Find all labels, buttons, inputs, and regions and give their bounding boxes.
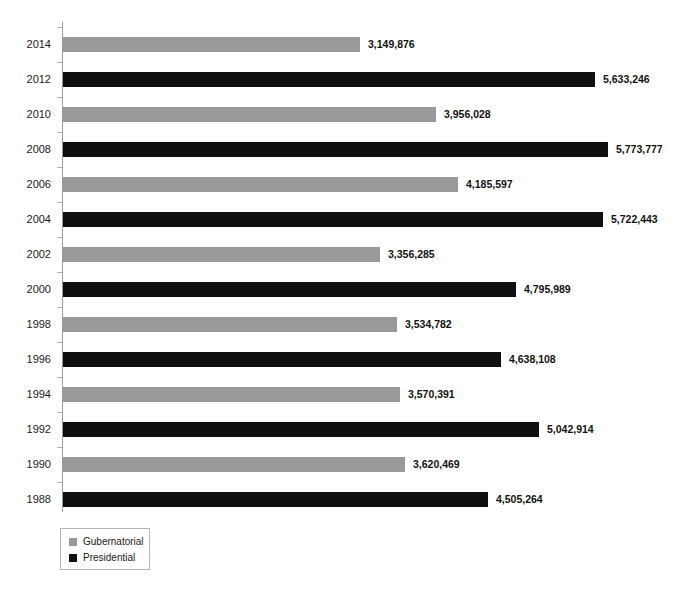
axis-tick <box>57 412 62 413</box>
category-label: 2010 <box>0 107 51 121</box>
category-label: 2000 <box>0 282 51 296</box>
bar-value-label: 4,505,264 <box>496 493 543 506</box>
category-label: 1988 <box>0 492 51 506</box>
axis-tick <box>57 307 62 308</box>
bar-presidential <box>63 282 516 297</box>
bar-row: 19964,638,108 <box>0 342 690 377</box>
axis-tick <box>57 27 62 28</box>
bar-gubernatorial <box>63 247 380 262</box>
bar-presidential <box>63 492 488 507</box>
bar-value-label: 3,534,782 <box>405 318 452 331</box>
bar-gubernatorial <box>63 387 400 402</box>
axis-tick <box>57 97 62 98</box>
bar-row: 20085,773,777 <box>0 132 690 167</box>
category-label: 1996 <box>0 352 51 366</box>
bar-value-label: 5,773,777 <box>616 143 663 156</box>
category-label: 2002 <box>0 247 51 261</box>
bar-value-label: 3,149,876 <box>368 38 415 51</box>
bar-row: 20023,356,285 <box>0 237 690 272</box>
bar-value-label: 5,042,914 <box>547 423 594 436</box>
category-label: 1998 <box>0 317 51 331</box>
bar-row: 19884,505,264 <box>0 482 690 517</box>
axis-tick <box>57 62 62 63</box>
bar-row: 19903,620,469 <box>0 447 690 482</box>
axis-tick <box>57 272 62 273</box>
category-label: 1994 <box>0 387 51 401</box>
bar-presidential <box>63 352 501 367</box>
bar-row: 20125,633,246 <box>0 62 690 97</box>
axis-tick <box>57 237 62 238</box>
bar-row: 19983,534,782 <box>0 307 690 342</box>
bar-row: 20064,185,597 <box>0 167 690 202</box>
bar-value-label: 3,570,391 <box>408 388 455 401</box>
axis-tick <box>57 342 62 343</box>
chart-legend: Gubernatorial Presidential <box>60 528 150 570</box>
category-label: 2012 <box>0 72 51 86</box>
axis-tick <box>57 132 62 133</box>
bar-gubernatorial <box>63 177 458 192</box>
axis-tick <box>57 377 62 378</box>
legend-label-gubernatorial: Gubernatorial <box>83 535 144 549</box>
axis-tick <box>57 482 62 483</box>
bar-value-label: 4,795,989 <box>524 283 571 296</box>
bar-presidential <box>63 212 603 227</box>
bar-value-label: 5,722,443 <box>611 213 658 226</box>
bar-presidential <box>63 422 539 437</box>
category-label: 2006 <box>0 177 51 191</box>
bar-gubernatorial <box>63 317 397 332</box>
bar-value-label: 4,185,597 <box>466 178 513 191</box>
category-label: 2004 <box>0 212 51 226</box>
bar-value-label: 3,620,469 <box>413 458 460 471</box>
bar-row: 20004,795,989 <box>0 272 690 307</box>
category-label: 1990 <box>0 457 51 471</box>
legend-swatch-icon-presidential <box>69 554 77 562</box>
bar-row: 19925,042,914 <box>0 412 690 447</box>
legend-label-presidential: Presidential <box>83 551 135 565</box>
bar-row: 20045,722,443 <box>0 202 690 237</box>
axis-tick <box>57 202 62 203</box>
bar-presidential <box>63 72 595 87</box>
bar-row: 19943,570,391 <box>0 377 690 412</box>
bar-value-label: 5,633,246 <box>603 73 650 86</box>
category-label: 2014 <box>0 37 51 51</box>
category-label: 2008 <box>0 142 51 156</box>
bar-row: 20103,956,028 <box>0 97 690 132</box>
bar-presidential <box>63 142 608 157</box>
bar-chart: Voter Turnout in Presidential and Gubern… <box>0 0 690 597</box>
category-label: 1992 <box>0 422 51 436</box>
axis-tick <box>57 447 62 448</box>
axis-tick <box>57 167 62 168</box>
bar-row: 20143,149,876 <box>0 27 690 62</box>
bar-gubernatorial <box>63 37 360 52</box>
bar-gubernatorial <box>63 457 405 472</box>
legend-swatch-icon-gubernatorial <box>69 538 77 546</box>
bar-gubernatorial <box>63 107 436 122</box>
bar-value-label: 4,638,108 <box>509 353 556 366</box>
bar-value-label: 3,356,285 <box>388 248 435 261</box>
bar-value-label: 3,956,028 <box>444 108 491 121</box>
plot-area: 20143,149,87620125,633,24620103,956,0282… <box>0 0 690 520</box>
